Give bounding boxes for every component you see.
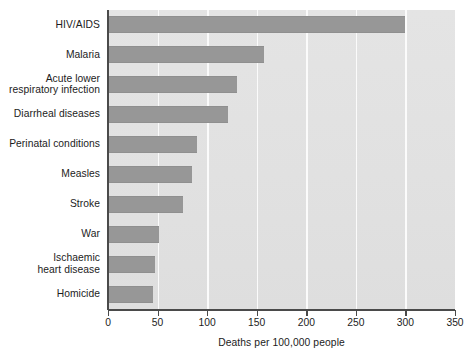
bar-chart: HIV/AIDSMalariaAcute lower respiratory i…: [0, 0, 465, 363]
tick-mark: [207, 310, 208, 316]
tick-mark: [257, 310, 258, 316]
category-label: Malaria: [0, 49, 100, 61]
category-label: Ischaemic heart disease: [0, 252, 100, 275]
plot-area: [108, 10, 455, 309]
gridline: [306, 10, 307, 309]
bar: [108, 106, 228, 123]
tick-label: 150: [237, 317, 277, 328]
bar: [108, 166, 192, 183]
tick-label: 350: [435, 317, 465, 328]
tick-label: 0: [88, 317, 128, 328]
tick-mark: [405, 310, 406, 316]
category-label: Diarrheal diseases: [0, 108, 100, 120]
bar: [108, 46, 264, 63]
category-label: Perinatal conditions: [0, 138, 100, 150]
gridline: [356, 10, 357, 309]
category-label: War: [0, 228, 100, 240]
tick-label: 200: [286, 317, 326, 328]
bar: [108, 16, 405, 33]
tick-mark: [455, 310, 456, 316]
category-label: Acute lower respiratory infection: [0, 73, 100, 96]
bar: [108, 226, 159, 243]
tick-label: 100: [187, 317, 227, 328]
tick-label: 250: [336, 317, 376, 328]
bar: [108, 286, 153, 303]
category-label: HIV/AIDS: [0, 19, 100, 31]
bar: [108, 196, 183, 213]
axis-left-spine: [107, 10, 109, 310]
bar: [108, 136, 197, 153]
tick-label: 300: [385, 317, 425, 328]
tick-mark: [356, 310, 357, 316]
tick-mark: [158, 310, 159, 316]
tick-mark: [108, 310, 109, 316]
bar: [108, 76, 237, 93]
tick-mark: [306, 310, 307, 316]
gridline: [405, 10, 406, 309]
category-label: Measles: [0, 168, 100, 180]
value-axis-line: [108, 309, 455, 311]
bar: [108, 256, 155, 273]
category-label: Homicide: [0, 288, 100, 300]
x-axis-title: Deaths per 100,000 people: [108, 337, 455, 348]
tick-label: 50: [138, 317, 178, 328]
category-label: Stroke: [0, 198, 100, 210]
category-axis: HIV/AIDSMalariaAcute lower respiratory i…: [0, 10, 104, 309]
